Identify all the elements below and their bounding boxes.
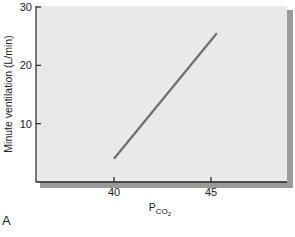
x-axis-label-sub: CO [156,207,168,216]
x-axis-label: PCO2 [149,201,172,217]
x-tick-label: 40 [108,186,120,198]
panel-label: A [2,213,11,228]
x-axis-label-main: P [149,201,156,213]
x-axis-label-subsub: 2 [168,211,172,217]
y-tick-label: 20 [20,59,32,71]
chart-svg: 102030 4045 Minute ventilation (L/min) P… [0,0,295,237]
y-tick-label: 10 [20,118,32,130]
y-tick-label: 30 [20,1,32,13]
x-tick-label: 45 [205,186,217,198]
y-axis-label: Minute ventilation (L/min) [2,35,14,152]
plot-area [36,6,287,182]
